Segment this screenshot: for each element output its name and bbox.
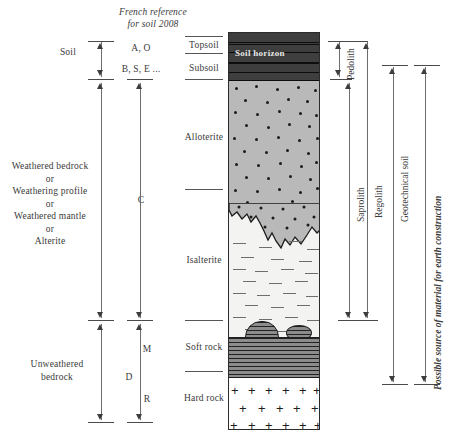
code-axis-c-bottom-tick (127, 320, 153, 321)
saprolith-arrow-down (345, 312, 351, 318)
code-axis-d-bottom-tick (127, 422, 153, 423)
bracket-label-regolith: Regolith (374, 185, 384, 218)
layer-alloterite (229, 81, 319, 213)
code-axis-d-arrow-down (136, 414, 142, 420)
code-axis-c-arrow-up (136, 83, 142, 89)
layer-name-rule-subsoil (185, 79, 223, 80)
layer-name-rule-alloterite (185, 189, 223, 190)
earth-construction-top-tick (414, 65, 440, 66)
horizon-code-b-s-e: B, S, E ... (113, 63, 169, 76)
horizon-code-m: M (130, 343, 164, 356)
left-label-unweathered-bedrock: Unweathered bedrock (16, 358, 98, 383)
layer-name-rule-isalterite (185, 320, 223, 321)
weathering-front (229, 203, 319, 263)
soil-column: Soil horizon (228, 32, 320, 430)
left-axis-weathered-arrow-down (97, 312, 103, 318)
saprolith-arrow-up (345, 83, 351, 89)
saprolith-line (349, 83, 350, 318)
code-axis-c-arrow-down (136, 312, 142, 318)
bracket-label-pedolith: Pedolith (346, 48, 356, 80)
saprolith-bottom-tick (338, 320, 378, 321)
regolith-arrow-down (363, 312, 369, 318)
horizon-code-c: C (118, 194, 164, 207)
pedolith-top-tick (328, 41, 368, 42)
bracket-label-saprolith: Saprolith (356, 187, 366, 222)
regolith-line (367, 42, 368, 318)
regolith-arrow-up (363, 43, 369, 49)
soil-horizon-divider-2 (229, 63, 319, 64)
code-axis-c-line (140, 83, 141, 318)
geotechnical-arrow-up (389, 68, 395, 74)
left-axis-unweathered-arrow-up (97, 324, 103, 330)
left-label-weathered-bedrock: Weathered bedrock or Weathering profile … (2, 160, 98, 248)
left-axis-weathered-bottom-tick (88, 320, 114, 321)
geotechnical-arrow-down (389, 376, 395, 382)
left-axis-unweathered-arrow-down (97, 414, 103, 420)
bracket-label-earth-construction: Possible source of material for earth co… (433, 196, 443, 390)
layer-name-rule-top (185, 36, 223, 37)
earth-construction-line (425, 67, 426, 382)
code-axis-d-arrow-up (136, 324, 142, 330)
left-axis-soil-arrow-up (97, 43, 103, 49)
soil-horizon-label: Soil horizon (235, 48, 285, 58)
layer-name-subsoil: Subsoil (176, 62, 232, 75)
left-label-soil: Soil (10, 46, 76, 59)
left-axis-unweathered-bottom-tick (88, 422, 114, 423)
geotechnical-top-tick (382, 65, 408, 66)
layer-name-topsoil: Topsoil (176, 39, 232, 52)
soil-horizon-divider-1 (229, 44, 319, 45)
pedolith-arrow-up (335, 43, 341, 49)
pedolith-arrow-down (335, 70, 341, 76)
code-axis-d-line (140, 324, 141, 420)
layer-name-rule-soft-rock (185, 371, 223, 372)
left-axis-soil-bottom-tick (88, 79, 114, 80)
bracket-label-geotechnical-soil: Geotechnical soil (400, 156, 410, 222)
layer-soft-rock (229, 337, 319, 377)
horizon-code-r: R (130, 393, 164, 406)
left-axis-weathered-arrow-up (97, 83, 103, 89)
header-line-2: for soil 2008 (108, 18, 198, 31)
horizon-code-a-o: A, O (118, 42, 164, 55)
horizon-code-d: D (112, 371, 146, 384)
header-line-1: French reference (108, 6, 198, 19)
left-axis-unweathered-line (101, 324, 102, 420)
layer-soil-horizon: Soil horizon (229, 33, 319, 81)
geotechnical-line (393, 67, 394, 382)
code-axis-c-top-tick (127, 79, 153, 80)
layer-name-rule-topsoil (185, 53, 223, 54)
earth-construction-arrow-up (421, 68, 427, 74)
earth-construction-arrow-down (421, 376, 427, 382)
left-axis-weathered-line (101, 83, 102, 318)
soil-profile-diagram: French reference for soil 2008 Soil Weat… (0, 0, 451, 434)
layer-hard-rock: + + + + + + + + + + + + + + + + + (229, 377, 319, 430)
geotechnical-bottom-tick (382, 384, 408, 385)
left-axis-soil-arrow-down (97, 70, 103, 76)
